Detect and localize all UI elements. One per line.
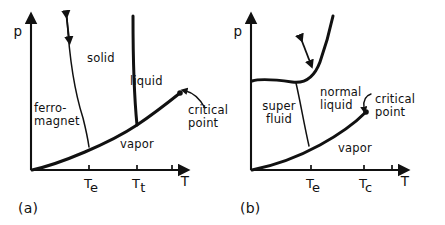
region-label-liquid: liquid [130,74,163,88]
y-axis-label: p [14,23,23,39]
region-label-vapor: vapor [120,137,154,151]
figure-canvas: pTTeTtferro-magnetsolidliquidvaporcritic… [0,0,445,225]
annotation-critical-point: point [188,116,219,130]
region-label-ferro-magnet: magnet [34,114,80,128]
region-label-super-fluid: super [262,99,295,113]
panel-b-label: (b) [240,200,260,216]
region-label-super-fluid: fluid [266,112,292,126]
annotation-critical-point: critical [375,92,415,106]
panel-b: pTTeTcsuperfluidnormalliquidvaporcritica… [234,16,416,195]
region-label-ferro-magnet: ferro- [34,101,67,115]
region-label-normal-liquid: normal [320,85,362,99]
x-tick-label: Te [83,176,98,195]
x-axis-label: T [180,173,190,189]
y-axis-label: p [234,23,243,39]
boundary-lambda-line [296,83,309,146]
annotation-critical-point: point [375,105,406,119]
annotation-critical-point: critical [188,103,228,117]
x-tick-label: Te [305,176,320,195]
region-label-normal-liquid: liquid [320,98,353,112]
critical-point-marker [363,109,369,115]
critical-point-leader-icon [364,94,371,108]
region-label-vapor: vapor [338,141,372,155]
phase-diagram-figure: pTTeTtferro-magnetsolidliquidvaporcritic… [0,0,445,225]
critical-point-marker [177,90,183,96]
x-axis-label: T [400,173,410,189]
transition-arrow-icon [300,36,310,62]
x-tick-label: Tc [358,176,372,195]
region-label-solid: solid [87,51,115,65]
x-tick-label: Tt [131,176,145,195]
panel-a-label: (a) [18,200,38,216]
boundary-melting-line [133,16,137,125]
panel-a: pTTeTtferro-magnetsolidliquidvaporcritic… [14,12,229,195]
boundary-melting-line [252,16,333,82]
